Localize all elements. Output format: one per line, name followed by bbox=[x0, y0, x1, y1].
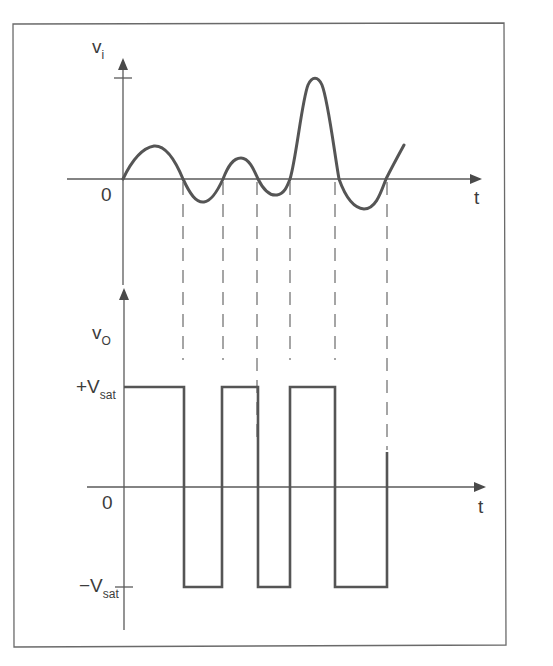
comparator-waveform-diagram: vi 0 t vO +Vsat 0 bbox=[0, 0, 553, 666]
figure-frame bbox=[13, 23, 506, 647]
output-plot: vO +Vsat 0 −Vsat t bbox=[76, 290, 484, 630]
positive-saturation-label: +Vsat bbox=[76, 376, 116, 402]
input-origin-label: 0 bbox=[101, 184, 112, 205]
zero-crossing-guides bbox=[183, 182, 387, 450]
input-x-axis-label: t bbox=[474, 187, 480, 208]
output-origin-label: 0 bbox=[102, 492, 113, 513]
output-x-axis-label: t bbox=[478, 496, 484, 517]
input-y-axis-label: vi bbox=[92, 36, 104, 62]
output-y-axis-label: vO bbox=[92, 322, 111, 348]
input-plot: vi 0 t bbox=[67, 36, 480, 285]
input-waveform bbox=[123, 78, 404, 209]
negative-saturation-label: −Vsat bbox=[79, 575, 119, 601]
